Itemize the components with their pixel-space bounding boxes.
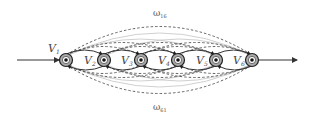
label-v1: V1 — [48, 42, 60, 55]
chain-diagram: V1 V2 V3 V4 V5 V6 ω16 ω61 — [0, 0, 313, 124]
label-v6: V6 — [233, 54, 245, 67]
label-omega-61: ω61 — [153, 102, 167, 113]
node-v3 — [135, 54, 148, 67]
label-v2: V2 — [84, 54, 96, 67]
label-omega-16: ω16 — [153, 8, 167, 19]
label-v3: V3 — [121, 54, 133, 67]
node-v5 — [210, 54, 223, 67]
node-v1 — [60, 54, 73, 67]
node-v2 — [98, 54, 111, 67]
label-v5: V5 — [196, 54, 208, 67]
label-v4: V4 — [158, 54, 170, 67]
node-v4 — [172, 54, 185, 67]
node-v6 — [246, 54, 259, 67]
